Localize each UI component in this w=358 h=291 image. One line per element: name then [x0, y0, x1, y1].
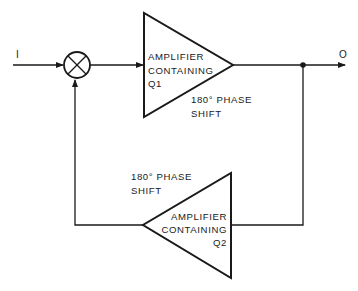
summing-junction-icon [64, 52, 90, 78]
amplifier-1-phase-line1: 180° PHASE [191, 94, 252, 105]
amplifier-2-label-line3: Q2 [213, 237, 227, 248]
amplifier-1-label-line1: AMPLIFIER [148, 51, 204, 62]
amplifier-2-phase-line2: SHIFT [131, 185, 162, 196]
feedback-path-left [75, 80, 143, 225]
amplifier-2-phase-line1: 180° PHASE [131, 171, 192, 182]
amplifier-2-label-line2: CONTAINING [161, 224, 227, 235]
amplifier-1-phase-line2: SHIFT [191, 108, 222, 119]
amplifier-1-label-line3: Q1 [148, 78, 162, 89]
amplifier-2-label-line1: AMPLIFIER [171, 211, 227, 222]
amplifier-1-label-line2: CONTAINING [148, 65, 214, 76]
output-label: O [339, 49, 347, 60]
feedback-diagram: I AMPLIFIER CONTAINING Q1 180° PHASE SHI… [0, 0, 358, 291]
feedback-path-right [231, 65, 303, 225]
input-label: I [16, 49, 19, 60]
